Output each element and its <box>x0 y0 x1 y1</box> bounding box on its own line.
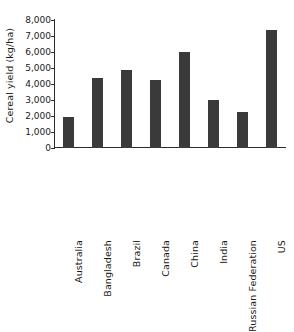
x-axis-tick-label-text: US <box>276 240 287 253</box>
y-axis-tick-mark <box>51 116 54 117</box>
y-axis-tick-mark <box>51 36 54 37</box>
y-axis-tick-mark <box>51 132 54 133</box>
x-axis-tick-label-text: Australia <box>73 240 84 283</box>
x-axis-tick-labels: AustraliaBangladeshBrazilCanadaChinaIndi… <box>54 150 286 244</box>
y-axis-tick-label: 5,000 <box>18 63 51 73</box>
y-axis-tick-label: 2,000 <box>18 111 51 121</box>
bar <box>63 117 74 148</box>
y-axis-tick-label: 1,000 <box>18 127 51 137</box>
y-axis-tick-mark <box>51 52 54 53</box>
x-axis-tick-label-text: China <box>189 240 200 268</box>
x-axis-tick-label: US <box>266 150 278 242</box>
y-axis-title-text: Cereal yield (kg/ha) <box>5 27 16 122</box>
y-axis-tick-label: 8,000 <box>18 15 51 25</box>
x-axis-tick-label: China <box>179 150 191 242</box>
y-axis-tick-label: 6,000 <box>18 47 51 57</box>
y-axis-tick-mark <box>51 20 54 21</box>
x-axis-tick-label: Russian Federation <box>237 150 249 242</box>
bar <box>266 30 277 148</box>
y-axis-tick-mark <box>51 84 54 85</box>
bar <box>92 78 103 148</box>
bar <box>179 52 190 148</box>
bar <box>121 70 132 148</box>
x-axis-tick-label-text: Russian Federation <box>247 240 258 332</box>
y-axis-tick-label: 4,000 <box>18 79 51 89</box>
x-axis-tick-label: Australia <box>63 150 75 242</box>
y-axis-tick-label: 0 <box>18 143 51 153</box>
y-axis-tick-label: 3,000 <box>18 95 51 105</box>
y-axis-tick-mark <box>51 68 54 69</box>
bar <box>237 112 248 148</box>
x-axis-tick-label: India <box>208 150 220 242</box>
x-axis-tick-label: Brazil <box>121 150 133 242</box>
bar <box>208 100 219 148</box>
x-axis-tick-label-text: Bangladesh <box>102 240 113 297</box>
bar <box>150 80 161 148</box>
y-axis-tick-labels: 01,0002,0003,0004,0005,0006,0007,0008,00… <box>18 14 51 154</box>
x-axis-tick-label-text: India <box>218 240 229 264</box>
y-axis-tick-mark <box>51 148 54 149</box>
plot-area <box>54 20 286 148</box>
x-axis-tick-label: Canada <box>150 150 162 242</box>
x-axis-tick-label: Bangladesh <box>92 150 104 242</box>
bars-layer <box>54 20 286 148</box>
x-axis-tick-label-text: Canada <box>160 240 171 277</box>
x-axis-tick-label-text: Brazil <box>131 240 142 267</box>
y-axis-tick-label: 7,000 <box>18 31 51 41</box>
y-axis-title: Cereal yield (kg/ha) <box>0 0 20 150</box>
y-axis-tick-mark <box>51 100 54 101</box>
